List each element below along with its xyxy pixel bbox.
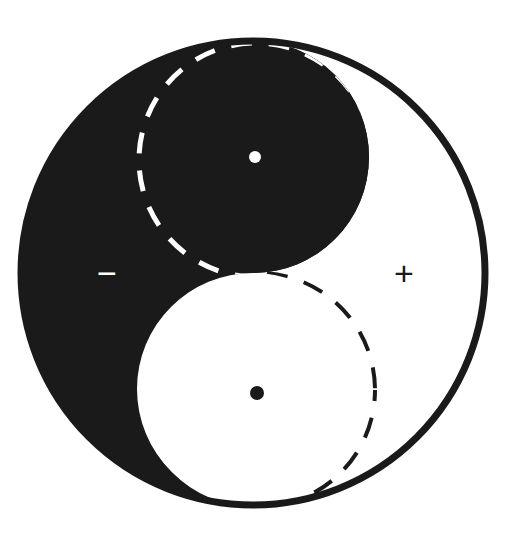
taiji-canvas [0,0,507,537]
minus-sign-label: − [90,256,124,290]
yin-yang-diagram: − + [0,0,507,537]
yang-eye [250,386,264,400]
yin-eye [249,151,261,163]
plus-sign-label: + [387,256,421,290]
